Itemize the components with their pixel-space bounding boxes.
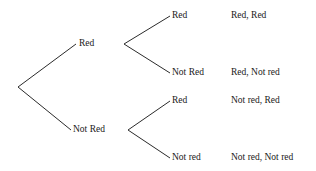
tree-branch-lines — [0, 0, 316, 171]
branch-red-to-red — [124, 16, 170, 44]
branch-notred-to-notred — [128, 130, 170, 158]
node-level2-red-red: Red — [172, 10, 187, 21]
outcome-not-red-not-red: Not red, Not red — [231, 152, 293, 163]
branch-red-to-notred — [124, 44, 170, 73]
node-level1-not-red: Not Red — [73, 124, 105, 135]
branch-notred-to-red — [128, 101, 170, 130]
node-level2-red-not-red: Not Red — [172, 67, 204, 78]
tree-diagram-canvas: Red Not Red Red Not Red Red Not red Red,… — [0, 0, 316, 171]
node-level2-not-red-not-red: Not red — [172, 152, 201, 163]
outcome-red-not-red: Red, Not red — [231, 67, 280, 78]
node-level1-red: Red — [79, 38, 94, 49]
outcome-red-red: Red, Red — [231, 10, 266, 21]
branch-root-to-notred — [18, 87, 71, 130]
outcome-not-red-red: Not red, Red — [231, 95, 280, 106]
branch-root-to-red — [18, 44, 76, 87]
node-level2-not-red-red: Red — [172, 95, 187, 106]
